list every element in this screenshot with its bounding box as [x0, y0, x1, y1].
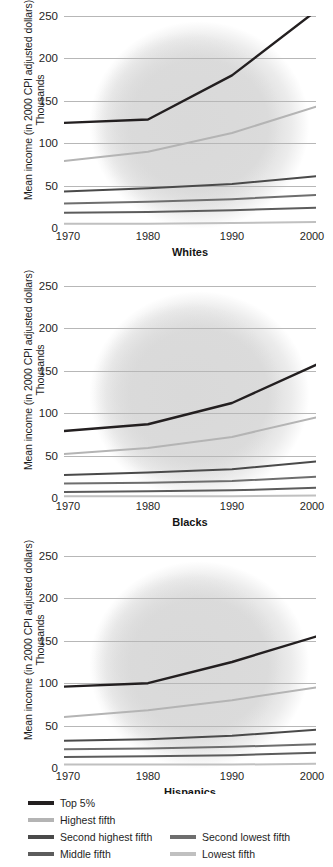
y-tick-label: 250	[39, 280, 58, 292]
series-line	[64, 753, 316, 757]
series-line	[64, 417, 316, 453]
y-tick-label: 200	[39, 322, 58, 334]
series-line	[64, 488, 316, 492]
y-tick-label: 200	[39, 592, 58, 604]
legend-swatch-icon	[28, 801, 54, 805]
series-line	[64, 195, 316, 203]
y-tick-label: 100	[39, 677, 58, 689]
x-tick-label: 1990	[220, 770, 244, 782]
y-axis-tick-labels: 050100150200250	[0, 270, 64, 514]
x-tick-label: 2000	[300, 500, 324, 512]
x-tick-label: 1970	[56, 500, 80, 512]
chart-panel-hispanics: Mean income (in 2000 CPI adjusted dollar…	[0, 540, 333, 802]
series-line	[64, 462, 316, 476]
legend-label: Highest fifth	[60, 814, 115, 826]
y-tick-label: 150	[39, 635, 58, 647]
series-line	[64, 107, 316, 161]
series-line	[64, 495, 316, 496]
series-lines	[64, 286, 316, 498]
legend-label: Lowest fifth	[202, 848, 255, 860]
series-lines	[64, 556, 316, 768]
legend-swatch-icon	[170, 835, 196, 839]
y-tick-label: 50	[45, 720, 58, 732]
series-line	[64, 222, 316, 224]
legend-item: Lowest fifth	[170, 847, 255, 864]
y-tick-label: 200	[39, 52, 58, 64]
legend-item: Second highest fifth	[28, 830, 152, 847]
chart-panel-blacks: Mean income (in 2000 CPI adjusted dollar…	[0, 270, 333, 540]
plot-area	[64, 286, 316, 498]
legend-label: Top 5%	[60, 797, 95, 809]
x-tick-label: 1970	[56, 770, 80, 782]
y-axis-tick-labels: 050100150200250	[0, 0, 64, 244]
plot-area	[64, 16, 316, 228]
legend-label: Middle fifth	[60, 848, 111, 860]
legend-item: Middle fifth	[28, 847, 111, 864]
x-tick-label: 2000	[300, 770, 324, 782]
series-line	[64, 687, 316, 717]
y-tick-label: 100	[39, 137, 58, 149]
legend-item: Highest fifth	[28, 813, 115, 830]
y-tick-label: 150	[39, 95, 58, 107]
legend-label: Second lowest fifth	[202, 831, 290, 843]
x-tick-label: 1980	[136, 500, 160, 512]
y-tick-label: 50	[45, 450, 58, 462]
x-tick-label: 1990	[220, 230, 244, 242]
x-tick-label: 1970	[56, 230, 80, 242]
chart-panel-whites: Mean income (in 2000 CPI adjusted dollar…	[0, 0, 333, 270]
x-tick-label: 2000	[300, 230, 324, 242]
panel-title: Blacks	[64, 516, 316, 528]
y-tick-label: 50	[45, 180, 58, 192]
legend-swatch-icon	[28, 852, 54, 856]
series-line	[64, 764, 316, 765]
y-tick-label: 250	[39, 550, 58, 562]
series-line	[64, 16, 316, 123]
series-line	[64, 365, 316, 431]
series-line	[64, 744, 316, 749]
series-line	[64, 176, 316, 191]
series-line	[64, 637, 316, 687]
legend-swatch-icon	[28, 835, 54, 839]
series-line	[64, 208, 316, 213]
chart-legend: Top 5%Highest fifthSecond highest fifthS…	[0, 794, 333, 867]
series-line	[64, 477, 316, 484]
x-tick-label: 1980	[136, 230, 160, 242]
legend-item: Second lowest fifth	[170, 830, 290, 847]
y-tick-label: 150	[39, 365, 58, 377]
series-lines	[64, 16, 316, 228]
y-axis-tick-labels: 050100150200250	[0, 540, 64, 784]
series-line	[64, 730, 316, 741]
y-tick-label: 100	[39, 407, 58, 419]
legend-swatch-icon	[28, 818, 54, 822]
legend-swatch-icon	[170, 852, 196, 856]
panel-title: Whites	[64, 246, 316, 258]
x-tick-label: 1990	[220, 500, 244, 512]
y-tick-label: 250	[39, 10, 58, 22]
x-tick-label: 1980	[136, 770, 160, 782]
legend-item: Top 5%	[28, 796, 95, 813]
plot-area	[64, 556, 316, 768]
legend-label: Second highest fifth	[60, 831, 152, 843]
